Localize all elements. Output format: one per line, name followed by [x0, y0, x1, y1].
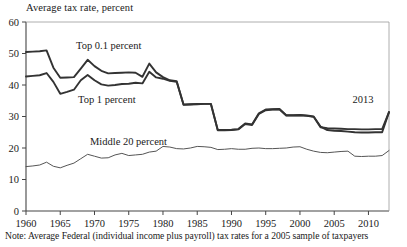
series-line-middle-20-percent — [26, 146, 389, 167]
y-tick-label: 40 — [9, 80, 20, 91]
x-tick-label: 1975 — [118, 218, 139, 229]
y-tick-label: 0 — [14, 206, 19, 217]
x-tick-label: 1970 — [84, 218, 105, 229]
series-label-top1: Top 1 percent — [78, 94, 136, 105]
x-tick-label: 1995 — [255, 218, 276, 229]
y-axis-ticks: 0102030405060 — [9, 17, 27, 217]
x-tick-label: 2010 — [358, 218, 379, 229]
y-tick-label: 60 — [9, 17, 20, 28]
y-tick-label: 30 — [9, 111, 20, 122]
x-tick-label: 2005 — [324, 218, 345, 229]
chart-series-group — [26, 50, 389, 167]
y-tick-label: 10 — [9, 174, 20, 185]
x-axis-ticks: 1960196519701975198019851990199520002005… — [16, 211, 379, 229]
chart-plot-area: 0102030405060 19601965197019751980198519… — [0, 0, 407, 247]
y-tick-label: 50 — [9, 48, 20, 59]
series-label-top01: Top 0.1 percent — [76, 40, 142, 51]
x-tick-label: 1965 — [50, 218, 71, 229]
x-tick-label: 1960 — [16, 218, 37, 229]
x-tick-label: 1990 — [221, 218, 242, 229]
x-tick-label: 1980 — [152, 218, 173, 229]
series-line-top-0-1-percent — [26, 50, 389, 132]
x-tick-label: 1985 — [187, 218, 208, 229]
y-tick-label: 20 — [9, 143, 20, 154]
annotation-2013: 2013 — [353, 94, 374, 105]
chart-note: Note: Average Federal (individual income… — [5, 230, 368, 241]
series-label-middle20: Middle 20 percent — [90, 136, 167, 147]
x-tick-label: 2000 — [289, 218, 310, 229]
chart-figure: Average tax rate, percent 0102030405060 … — [0, 0, 407, 247]
